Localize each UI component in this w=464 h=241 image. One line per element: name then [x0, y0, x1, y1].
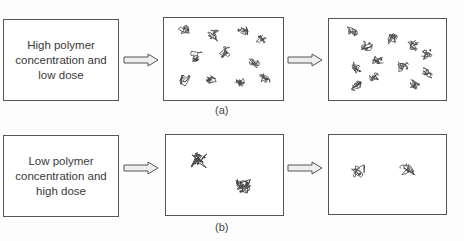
polymer-coil — [260, 74, 270, 83]
polymer-coil — [180, 75, 190, 86]
stage2-box-b — [328, 134, 447, 215]
polymer-coil — [206, 76, 216, 83]
polymer-coil — [422, 68, 433, 78]
right-arrow-icon — [287, 53, 323, 67]
right-arrow-icon — [123, 53, 159, 67]
condition-box-b: Low polymer concentration and high dose — [3, 135, 119, 217]
polymer-coil — [388, 34, 397, 44]
polymer-coil — [400, 164, 415, 175]
polymer-coils-a1 — [164, 18, 283, 100]
polymer-coil — [178, 25, 189, 33]
polymer-coil — [236, 79, 245, 87]
polymer-coil — [347, 27, 357, 36]
polymer-coil — [398, 61, 408, 71]
caption-a: (a) — [215, 104, 228, 116]
polymer-coil — [256, 35, 266, 43]
stage1-box-a — [163, 17, 284, 101]
right-arrow-icon — [287, 161, 323, 175]
polymer-coil — [249, 59, 259, 68]
polymer-coil — [351, 81, 361, 91]
polymer-coil — [410, 80, 420, 89]
polymer-coil — [352, 62, 361, 73]
polymer-coil — [219, 47, 230, 58]
stage2-box-a — [328, 18, 447, 101]
polymer-coil — [361, 41, 372, 51]
caption-b: (b) — [215, 221, 228, 233]
polymer-coil — [236, 180, 250, 193]
polymer-coil — [352, 165, 365, 178]
condition-label-b: Low polymer concentration and high dose — [12, 154, 110, 199]
polymer-coil — [421, 49, 432, 59]
condition-label-a: High polymer concentration and low dose — [12, 38, 110, 83]
right-arrow-icon — [123, 161, 159, 175]
stage1-box-b — [165, 134, 284, 216]
polymer-coil — [208, 30, 219, 41]
polymer-coil — [372, 56, 383, 64]
polymer-coil — [191, 51, 202, 62]
polymer-coil — [191, 152, 206, 168]
polymer-coil — [408, 40, 419, 50]
polymer-coil — [237, 27, 248, 35]
condition-box-a: High polymer concentration and low dose — [3, 19, 119, 101]
polymer-coils-b2 — [329, 135, 446, 214]
polymer-clusters-a2 — [329, 19, 446, 100]
polymer-coil — [369, 73, 379, 81]
polymer-coils-b1 — [166, 135, 283, 215]
